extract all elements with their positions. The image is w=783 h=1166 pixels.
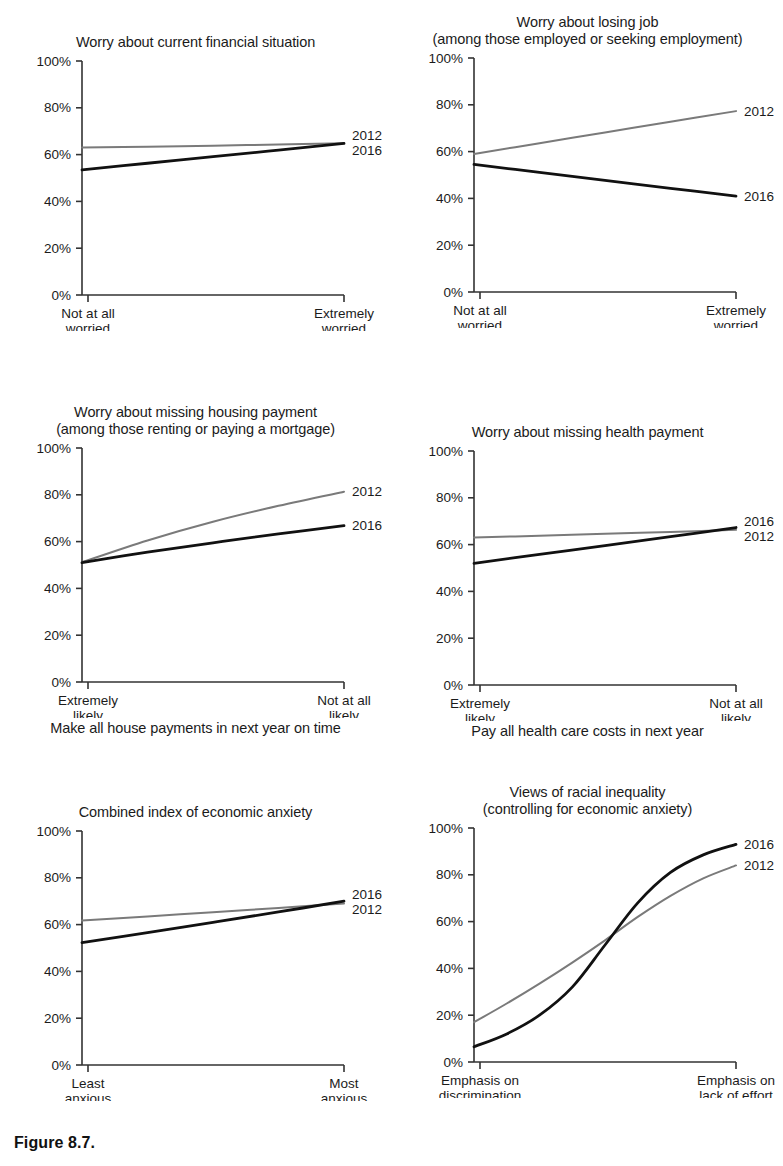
y-tick-label: 0% <box>443 1055 463 1070</box>
panel-views-of-racial-inequality: Views of racial inequality(controlling f… <box>392 784 783 1098</box>
x-axis-left-label: Extremely <box>58 693 118 708</box>
y-tick-label: 60% <box>44 147 71 162</box>
x-axis-left-label: Extremely <box>450 696 510 711</box>
series-end-label-2016: 2016 <box>744 189 774 204</box>
y-tick-label: 100% <box>428 51 463 66</box>
plot-area: 0%20%40%60%80%100%LeastanxiousMostanxiou… <box>0 821 391 1101</box>
y-tick-label: 40% <box>44 194 71 209</box>
figure-caption: Figure 8.7. <box>14 1134 95 1152</box>
panel-worry-missing-housing-payment: Worry about missing housing payment(amon… <box>0 404 391 737</box>
y-tick-label: 100% <box>428 821 463 836</box>
series-line-2012 <box>82 492 344 562</box>
plot-area: 0%20%40%60%80%100%Emphasis ondiscriminat… <box>392 818 783 1098</box>
y-tick-label: 40% <box>44 581 71 596</box>
panel-title-line1: Worry about losing job <box>392 14 783 31</box>
y-tick-label: 60% <box>436 537 463 552</box>
x-axis-left-label: Least <box>71 1076 104 1091</box>
y-tick-label: 60% <box>44 534 71 549</box>
series-line-2016 <box>474 844 736 1046</box>
y-tick-label: 80% <box>436 97 463 112</box>
x-axis-left-label: likely <box>465 711 495 721</box>
panel-footer-label: Make all house payments in next year on … <box>0 720 391 737</box>
figure-8-7: Worry about current financial situation0… <box>0 0 783 1166</box>
x-axis-right-label: Emphasis on <box>697 1073 775 1088</box>
x-axis-left-label: anxious <box>65 1091 112 1101</box>
y-tick-label: 0% <box>51 1058 71 1073</box>
series-end-label-2012: 2012 <box>744 104 774 119</box>
x-axis-right-label: Extremely <box>706 303 766 318</box>
x-axis-right-label: worried <box>713 318 758 328</box>
x-axis-right-label: Not at all <box>709 696 762 711</box>
series-end-label-2012: 2012 <box>352 902 382 917</box>
series-end-label-2016: 2016 <box>744 514 774 529</box>
y-tick-label: 40% <box>436 961 463 976</box>
y-tick-label: 20% <box>436 631 463 646</box>
panel-title: Worry about losing job(among those emplo… <box>392 14 783 48</box>
panel-title: Combined index of economic anxiety <box>0 804 391 821</box>
plot-area: 0%20%40%60%80%100%ExtremelylikelyNot at … <box>392 441 783 721</box>
series-end-label-2016: 2016 <box>352 143 382 158</box>
plot-area: 0%20%40%60%80%100%Not at allworriedExtre… <box>392 48 783 328</box>
x-axis-left-label: worried <box>65 321 110 331</box>
y-tick-label: 60% <box>436 914 463 929</box>
y-tick-label: 40% <box>436 191 463 206</box>
y-tick-label: 60% <box>44 917 71 932</box>
x-axis-left-label: discrimination <box>439 1088 522 1098</box>
series-end-label-2012: 2012 <box>352 128 382 143</box>
y-tick-label: 0% <box>443 285 463 300</box>
y-tick-label: 20% <box>44 1011 71 1026</box>
series-end-label-2016: 2016 <box>352 887 382 902</box>
x-axis-right-label: likely <box>329 708 359 718</box>
panel-title-line2: (among those employed or seeking employm… <box>392 31 783 48</box>
y-tick-label: 100% <box>428 444 463 459</box>
y-tick-label: 20% <box>436 238 463 253</box>
series-end-label-2016: 2016 <box>352 518 382 533</box>
plot-area: 0%20%40%60%80%100%Not at allworriedExtre… <box>0 51 391 331</box>
series-line-2016 <box>82 901 344 942</box>
x-axis-right-label: Extremely <box>314 306 374 321</box>
panel-title: Worry about missing housing payment(amon… <box>0 404 391 438</box>
y-tick-label: 20% <box>436 1008 463 1023</box>
series-line-2016 <box>82 526 344 563</box>
panel-footer-label: Pay all health care costs in next year <box>392 723 783 740</box>
x-axis-right-label: Not at all <box>317 693 370 708</box>
x-axis-left-label: Emphasis on <box>441 1073 519 1088</box>
panel-title: Views of racial inequality(controlling f… <box>392 784 783 818</box>
panel-combined-index-economic-anxiety: Combined index of economic anxiety0%20%4… <box>0 804 391 1101</box>
y-tick-label: 80% <box>436 867 463 882</box>
x-axis-right-label: anxious <box>321 1091 368 1101</box>
series-line-2016 <box>474 164 736 196</box>
y-tick-label: 20% <box>44 241 71 256</box>
plot-area: 0%20%40%60%80%100%ExtremelylikelyNot at … <box>0 438 391 718</box>
panel-title-line1: Worry about missing health payment <box>392 424 783 441</box>
y-tick-label: 0% <box>51 288 71 303</box>
x-axis-left-label: worried <box>457 318 502 328</box>
panel-title: Worry about missing health payment <box>392 424 783 441</box>
x-axis-right-label: Most <box>329 1076 359 1091</box>
y-tick-label: 100% <box>36 54 71 69</box>
x-axis-left-label: Not at all <box>61 306 114 321</box>
y-tick-label: 100% <box>36 441 71 456</box>
y-tick-label: 60% <box>436 144 463 159</box>
y-tick-label: 80% <box>44 100 71 115</box>
panel-title-line2: (controlling for economic anxiety) <box>392 801 783 818</box>
x-axis-right-label: likely <box>721 711 751 721</box>
y-tick-label: 100% <box>36 824 71 839</box>
panel-title: Worry about current financial situation <box>0 34 391 51</box>
panel-worry-current-financial-situation: Worry about current financial situation0… <box>0 34 391 331</box>
y-tick-label: 20% <box>44 628 71 643</box>
y-tick-label: 80% <box>44 487 71 502</box>
panel-title-line1: Worry about missing housing payment <box>0 404 391 421</box>
x-axis-left-label: likely <box>73 708 103 718</box>
series-end-label-2012: 2012 <box>352 484 382 499</box>
series-end-label-2012: 2012 <box>744 529 774 544</box>
series-end-label-2012: 2012 <box>744 858 774 873</box>
y-tick-label: 40% <box>44 964 71 979</box>
y-tick-label: 40% <box>436 584 463 599</box>
panel-title-line1: Combined index of economic anxiety <box>0 804 391 821</box>
x-axis-right-label: lack of effort <box>699 1088 773 1098</box>
y-tick-label: 80% <box>436 490 463 505</box>
series-end-label-2016: 2016 <box>744 837 774 852</box>
y-tick-label: 0% <box>443 678 463 693</box>
series-line-2012 <box>474 111 736 154</box>
